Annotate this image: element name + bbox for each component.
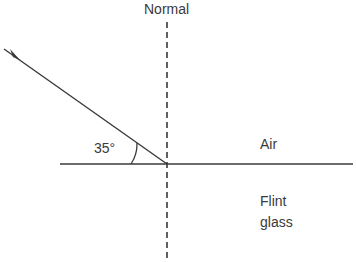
incident-ray [4,49,167,164]
normal-label: Normal [144,1,189,18]
medium-air-label: Air [260,136,277,153]
medium-glass-label-line1: Flint [260,193,286,210]
angle-label: 35° [94,140,115,157]
medium-glass-label-line2: glass [260,214,293,231]
arrowhead-icon [8,49,20,60]
refraction-diagram [0,0,356,262]
angle-arc [131,143,137,164]
